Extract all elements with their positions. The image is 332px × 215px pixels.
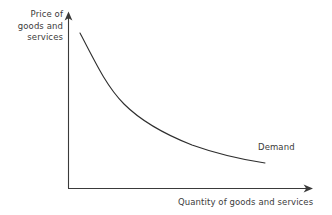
demand-curve-label: Demand [258, 142, 295, 154]
demand-curve-figure: Price of goods and services Quantity of … [0, 0, 332, 215]
x-axis-label: Quantity of goods and services [178, 197, 313, 209]
y-axis-label-line-1: Price of [0, 9, 63, 21]
demand-curve-path [80, 33, 265, 163]
y-axis-label: Price of goods and services [0, 9, 63, 44]
y-axis-label-line-2: goods and [0, 21, 63, 33]
y-axis-label-line-3: services [0, 32, 63, 44]
